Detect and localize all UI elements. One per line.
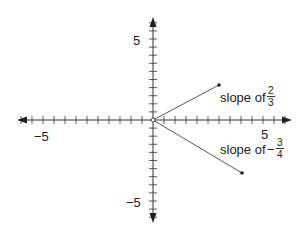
coordinate-plane: 5 −5 −5 5 slope of 2 3 slope of − 3 4 [0, 0, 307, 243]
x-axis-right-arrow-icon [282, 117, 292, 124]
x-axis-label-5: 5 [261, 127, 268, 142]
svg-text:slope of: slope of [220, 90, 266, 105]
origin-point [151, 118, 155, 122]
fraction-denominator: 4 [277, 149, 283, 160]
label-slope-neg-3-4: slope of − 3 4 [220, 137, 284, 160]
segment-slope-2-3 [153, 85, 219, 120]
y-axis-down-arrow-icon [150, 213, 157, 223]
x-axis-left-arrow-icon [17, 117, 27, 124]
fraction-numerator: 2 [268, 85, 274, 96]
fraction-numerator: 3 [277, 137, 283, 148]
fraction-denominator: 3 [268, 97, 274, 108]
y-axis-up-arrow-icon [150, 17, 157, 27]
svg-text:slope of: slope of [220, 142, 266, 157]
label-slope-2-3: slope of 2 3 [220, 85, 275, 108]
endpoint-3-2 [217, 83, 221, 87]
minus-sign: − [267, 142, 275, 157]
x-axis-label-neg5: −5 [34, 129, 49, 144]
y-axis-label-neg5: −5 [126, 195, 141, 210]
y-axis-label-5: 5 [133, 33, 140, 48]
endpoint-4-neg3 [240, 171, 244, 175]
